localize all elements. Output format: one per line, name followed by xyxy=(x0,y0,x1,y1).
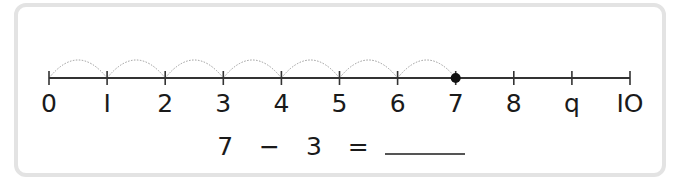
number-line: 0I2345678qIO xyxy=(0,0,682,130)
tick-label-7: 7 xyxy=(448,89,464,118)
equation-equals: = xyxy=(348,132,369,161)
tick-label-8: 8 xyxy=(506,89,522,118)
tick-label-5: 5 xyxy=(332,89,348,118)
hop-arc-6 xyxy=(398,60,456,78)
tick-label-3: 3 xyxy=(215,89,231,118)
hop-arc-5 xyxy=(340,60,398,78)
hop-arc-0 xyxy=(49,60,107,78)
answer-blank[interactable] xyxy=(385,131,465,155)
hop-arc-2 xyxy=(165,60,223,78)
hop-arcs xyxy=(49,60,456,78)
tick-label-10: IO xyxy=(616,89,643,118)
equation-right: 3 xyxy=(306,132,322,161)
tick-label-2: 2 xyxy=(157,89,173,118)
equation-operator: − xyxy=(259,132,280,161)
tick-label-9: q xyxy=(564,89,580,118)
tick-label-1: I xyxy=(103,89,110,118)
marked-point xyxy=(451,73,461,83)
hop-arc-4 xyxy=(281,60,339,78)
equation-left: 7 xyxy=(217,132,233,161)
equation: 7 − 3 = xyxy=(0,131,682,161)
hop-arc-1 xyxy=(107,60,165,78)
tick-label-4: 4 xyxy=(273,89,289,118)
hop-arc-3 xyxy=(223,60,281,78)
tick-labels: 0I2345678qIO xyxy=(41,89,643,118)
tick-label-0: 0 xyxy=(41,89,57,118)
tick-label-6: 6 xyxy=(390,89,406,118)
